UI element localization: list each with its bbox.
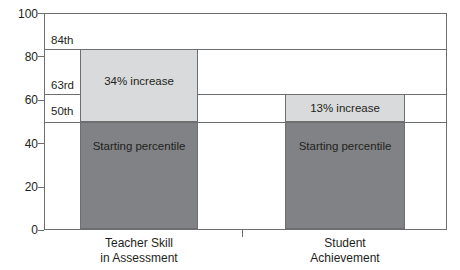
percentile-label-50th: 50th bbox=[51, 106, 73, 118]
y-axis: 100 80 60 40 20 0 bbox=[0, 0, 38, 270]
bar-2-base-segment: Starting percentile bbox=[285, 122, 405, 229]
x-tickmark-center bbox=[242, 230, 243, 237]
y-tick-label-60: 60 bbox=[25, 94, 38, 106]
y-tick-label-0: 0 bbox=[31, 224, 38, 236]
bar-2-increase-label: 13% increase bbox=[286, 103, 404, 115]
bar-1-base-label: Starting percentile bbox=[81, 141, 197, 153]
bar-1-increase-segment: 34% increase bbox=[80, 49, 198, 122]
x-category-label-student-achievement: Student Achievement bbox=[285, 236, 405, 265]
bar-1-increase-label: 34% increase bbox=[81, 76, 197, 88]
x-category-label-student-achievement-line2: Achievement bbox=[285, 251, 405, 266]
y-tick-label-20: 20 bbox=[25, 181, 38, 193]
percentile-label-84th: 84th bbox=[51, 35, 73, 47]
x-category-label-student-achievement-line1: Student bbox=[285, 236, 405, 251]
y-tickmark-0 bbox=[38, 230, 44, 231]
chart-container: 100 80 60 40 20 0 84th 63rd 50th 34% inc… bbox=[0, 0, 460, 270]
y-tick-label-80: 80 bbox=[25, 51, 38, 63]
x-category-label-teacher-skill: Teacher Skill in Assessment bbox=[79, 236, 199, 265]
x-category-label-teacher-skill-line1: Teacher Skill bbox=[79, 236, 199, 251]
plot-area: 84th 63rd 50th 34% increase Starting per… bbox=[44, 13, 447, 230]
x-category-label-teacher-skill-line2: in Assessment bbox=[79, 251, 199, 266]
bar-2-increase-segment: 13% increase bbox=[285, 94, 405, 122]
bar-1-base-segment: Starting percentile bbox=[80, 122, 198, 229]
percentile-label-63rd: 63rd bbox=[51, 80, 74, 92]
y-tick-label-40: 40 bbox=[25, 138, 38, 150]
bar-2-base-label: Starting percentile bbox=[286, 141, 404, 153]
y-tick-label-100: 100 bbox=[18, 8, 38, 20]
